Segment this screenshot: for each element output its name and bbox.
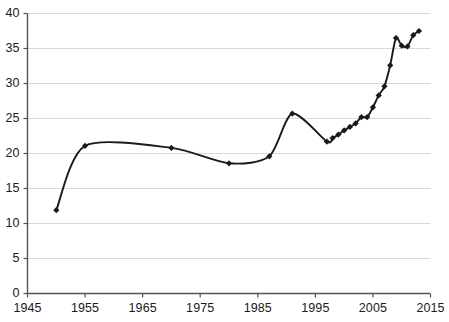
x-axis-tick-label: 1955 xyxy=(63,301,107,315)
x-axis-tick-label: 1945 xyxy=(6,301,50,315)
data-point-marker xyxy=(381,83,387,89)
x-axis-tick-label: 1985 xyxy=(236,301,280,315)
data-point-marker xyxy=(168,145,174,151)
y-axis-tick-label: 15 xyxy=(0,181,20,195)
data-point-marker xyxy=(226,160,232,166)
data-point-marker xyxy=(53,207,59,213)
x-axis-tick-label: 1975 xyxy=(178,301,222,315)
line-chart-plot xyxy=(0,0,449,322)
y-axis-tick-label: 40 xyxy=(0,6,20,20)
data-point-marker xyxy=(387,62,393,68)
y-axis-tick-label: 10 xyxy=(0,216,20,230)
y-axis-tick-label: 5 xyxy=(0,251,20,265)
x-axis-tick-label: 1965 xyxy=(121,301,165,315)
y-axis-tick-label: 0 xyxy=(0,286,20,300)
y-axis-tick-label: 20 xyxy=(0,146,20,160)
x-axis-tick-label: 2015 xyxy=(409,301,449,315)
x-axis-tick-label: 1995 xyxy=(293,301,337,315)
x-axis-tick-label: 2005 xyxy=(351,301,395,315)
y-axis-tick-label: 35 xyxy=(0,41,20,55)
data-line xyxy=(56,31,419,210)
chart-container: 0510152025303540194519551965197519851995… xyxy=(0,0,449,322)
y-axis-tick-label: 25 xyxy=(0,111,20,125)
y-axis-tick-label: 30 xyxy=(0,76,20,90)
